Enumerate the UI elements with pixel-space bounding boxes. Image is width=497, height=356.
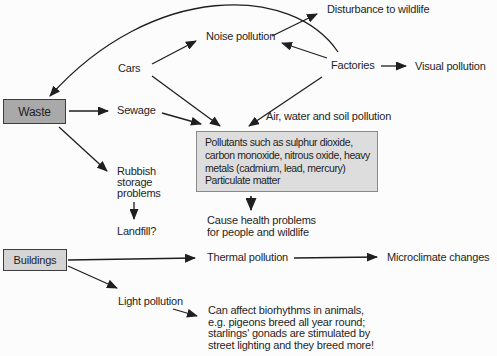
label-air-water-soil-pollution: Air, water and soil pollution bbox=[266, 110, 391, 123]
pollutants-box: Pollutants such as sulphur dioxide, carb… bbox=[196, 131, 378, 192]
buildings-box: Buildings bbox=[3, 249, 67, 271]
waste-box: Waste bbox=[3, 99, 66, 124]
arrow-cars-to-pollutants bbox=[152, 76, 220, 126]
label-microclimate-changes: Microclimate changes bbox=[387, 251, 489, 264]
label-landfill: Landfill? bbox=[117, 225, 156, 238]
label-biorhythms-note: Can affect biorhythms in animals, e.g. p… bbox=[208, 305, 374, 351]
diagram-canvas: Waste Buildings Pollutants such as sulph… bbox=[0, 0, 497, 356]
arrow-cars-to-noise bbox=[152, 41, 196, 64]
label-disturbance-to-wildlife: Disturbance to wildlife bbox=[327, 3, 429, 16]
label-sewage: Sewage bbox=[117, 104, 156, 117]
arrow-thermal-to-microclimate bbox=[294, 257, 377, 258]
arrow-factories-to-noise bbox=[282, 43, 327, 58]
label-noise-pollution: Noise pollution bbox=[206, 30, 275, 43]
arrow-factories-to-waste bbox=[50, 5, 338, 96]
label-visual-pollution: Visual pollution bbox=[415, 60, 486, 73]
label-cars: Cars bbox=[118, 62, 140, 75]
label-rubbish-storage-problems: Rubbish storage problems bbox=[117, 166, 161, 198]
arrow-buildings-to-light bbox=[68, 266, 117, 288]
arrow-light-to-biorhythms bbox=[173, 309, 197, 316]
label-cause-health-problems: Cause health problems for people and wil… bbox=[207, 215, 316, 238]
arrow-buildings-to-thermal bbox=[68, 258, 195, 260]
arrow-waste-to-rubbish bbox=[59, 127, 107, 171]
label-thermal-pollution: Thermal pollution bbox=[207, 251, 288, 264]
label-factories: Factories bbox=[331, 59, 374, 72]
label-light-pollution: Light pollution bbox=[118, 295, 183, 308]
arrow-sewage-to-pollutants bbox=[162, 113, 201, 124]
